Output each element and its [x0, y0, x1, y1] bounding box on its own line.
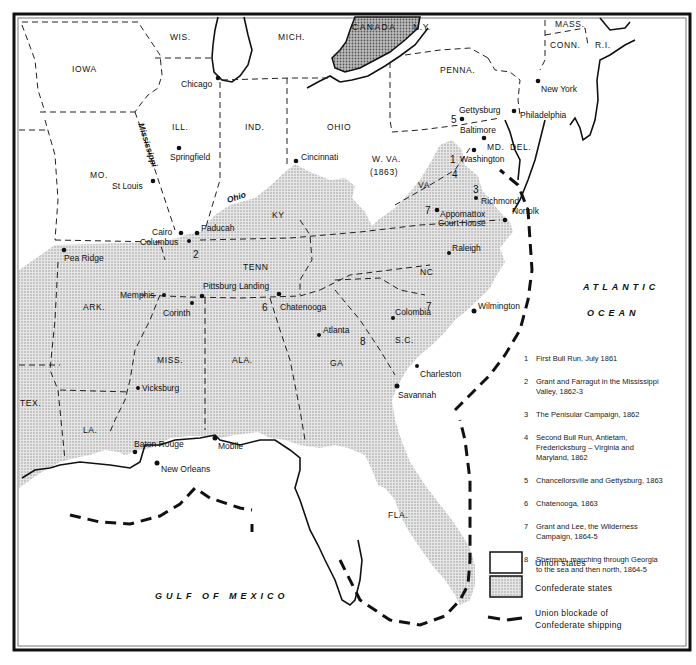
city-label-stlouis: St Louis: [112, 181, 143, 191]
city-dot-corinth: [190, 301, 194, 305]
city-dot-paducah: [195, 231, 200, 236]
city-label-raleigh: Raleigh: [452, 243, 481, 253]
city-label-philadelphia: Philadelphia: [520, 110, 567, 120]
state-label-miss: MISS.: [157, 355, 183, 365]
campaign-marker-7a: 7: [425, 205, 431, 216]
state-label-va: VA: [418, 180, 430, 190]
campaign-legend-text: Chancellorsville and Gettysburg, 1863: [536, 476, 663, 485]
state-label-tex: TEX.: [20, 398, 41, 408]
state-label-ri: R.I.: [595, 40, 611, 50]
blockade-key-label-1: Union blockade of: [535, 608, 608, 618]
campaign-legend-number: 8: [524, 555, 528, 564]
city-dot-appomattox: [435, 208, 440, 213]
city-dot-stlouis: [151, 179, 156, 184]
state-label-penna: PENNA.: [440, 65, 475, 75]
campaign-legend-number: 1: [524, 354, 528, 363]
campaign-marker-4: 4: [452, 169, 458, 180]
state-label-ny: N.Y.: [413, 22, 431, 32]
city-label-paducah: Paducah: [201, 223, 235, 233]
campaign-legend-text: Chatenooga, 1863: [536, 499, 598, 508]
campaign-legend-text: Grant and Lee, the Wilderness: [536, 522, 638, 531]
campaign-legend-number: 5: [524, 476, 528, 485]
city-label-savannah: Savannah: [398, 390, 437, 400]
city-dot-chatenooga: [277, 292, 282, 297]
city-dot-cairo: [179, 231, 184, 236]
city-dot-raleigh: [447, 251, 451, 255]
city-label-memphis: Memphis: [120, 290, 154, 300]
campaign-legend-text: Second Bull Run, Antietam,: [536, 433, 627, 442]
city-dot-richmond: [474, 196, 478, 200]
city-dot-batonrouge: [133, 450, 138, 455]
state-label-sc: S.C.: [395, 335, 414, 345]
city-label-chatenooga: Chatenooga: [280, 302, 327, 312]
city-dot-memphis: [162, 293, 166, 297]
city-label-pittsburglanding: Pittsburg Landing: [203, 281, 269, 291]
campaign-legend-text: Campaign, 1864-5: [536, 532, 598, 541]
city-dot-newyork: [536, 79, 541, 84]
campaign-legend-number: 4: [524, 433, 528, 442]
city-label-washington: Washington: [460, 154, 505, 164]
city-dot-vicksburg: [136, 386, 140, 390]
campaign-marker-3: 3: [473, 184, 479, 195]
city-dot-philadelphia: [512, 109, 517, 114]
state-label-la: LA.: [83, 425, 98, 435]
state-label-md: MD.: [487, 142, 504, 152]
city-label-springfield: Springfield: [170, 152, 210, 162]
city-label-mobile: Mobile: [218, 441, 243, 451]
blockade-key-label-2: Confederate shipping: [535, 620, 622, 630]
city-dot-mobile: [213, 436, 218, 441]
city-dot-atlanta: [317, 333, 321, 337]
campaign-legend-number: 7: [524, 522, 528, 531]
city-label-baltimore: Baltimore: [460, 125, 496, 135]
city-label-charleston: Charleston: [420, 369, 461, 379]
city-label-wilmington: Wilmington: [478, 301, 520, 311]
city-label-gettysburg: Gettysburg: [459, 105, 501, 115]
campaign-legend-text: First Bull Run, July 1861: [536, 354, 617, 363]
sea-label-ocean: OCEAN: [587, 308, 640, 318]
state-label-ill: ILL.: [172, 122, 189, 132]
campaign-legend-text: The Penisular Campaign, 1862: [536, 410, 639, 419]
city-dot-cincinnati: [294, 159, 299, 164]
campaign-marker-2: 2: [193, 249, 199, 260]
state-label-conn: CONN.: [550, 40, 580, 50]
city-dot-chicago: [216, 76, 221, 81]
confederate-key-label: Confederate states: [535, 583, 612, 593]
city-dot-norfolk: [503, 218, 508, 223]
city-dot-gettysburg: [460, 117, 465, 122]
state-label-del: DEL.: [510, 142, 531, 152]
state-label-ohio: OHIO: [327, 122, 351, 132]
campaign-marker-8: 8: [360, 336, 366, 347]
state-label-wis: WIS.: [170, 32, 191, 42]
state-label-wva: W. VA.: [372, 154, 401, 164]
country-label-canada: CANADA: [352, 22, 396, 32]
city-label-corinth: Corinth: [163, 308, 191, 318]
state-label-wva-year: (1863): [370, 167, 398, 177]
state-label-iowa: IOWA: [72, 64, 97, 74]
city-label-batonrouge: Baton Rouge: [134, 439, 184, 449]
city-label-columbus: Columbus: [140, 237, 178, 247]
state-label-mich: MICH.: [278, 32, 305, 42]
campaign-marker-6: 6: [262, 302, 268, 313]
city-label-norfolk: Norfolk: [512, 206, 540, 216]
city-label-chicago: Chicago: [181, 79, 212, 89]
civil-war-map: IOWA WIS. MICH. N.Y. MASS. CONN. R.I. PE…: [0, 0, 696, 665]
state-label-mass: MASS.: [555, 19, 584, 29]
sea-label-atlantic: ATLANTIC: [582, 282, 659, 292]
city-label-pearidge: Pea Ridge: [64, 253, 104, 263]
state-label-nc: NC: [420, 267, 433, 277]
city-dot-savannah: [395, 384, 400, 389]
campaign-legend-text: Grant and Farragut in the Mississippi: [536, 377, 659, 386]
city-dot-charleston: [415, 364, 419, 368]
state-label-mo: MO.: [90, 170, 108, 180]
state-label-ky: KY: [272, 210, 285, 220]
sea-label-gulf: GULF OF MEXICO: [155, 591, 289, 601]
city-label-cincinnati: Cincinnati: [301, 152, 338, 162]
campaign-legend-number: 3: [524, 410, 528, 419]
state-label-ala: ALA.: [232, 355, 253, 365]
city-dot-springfield: [177, 146, 182, 151]
campaign-legend-text: Fredericksburg – Virginia and: [536, 443, 634, 452]
state-label-fla: FLA.: [388, 510, 408, 520]
state-label-ind: IND.: [245, 122, 264, 132]
city-dot-columbus: [187, 239, 191, 243]
city-dot-baltimore: [482, 136, 487, 141]
